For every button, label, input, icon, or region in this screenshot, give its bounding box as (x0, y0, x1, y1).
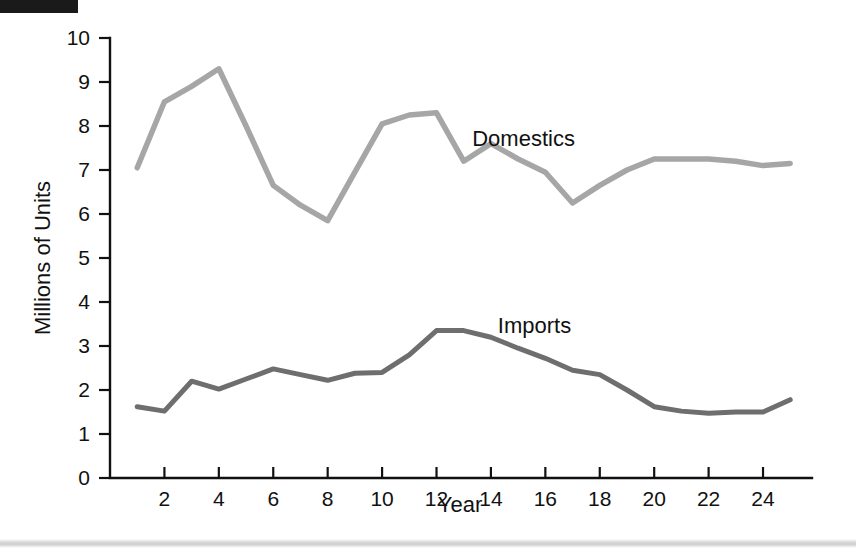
chart-tick-marks (99, 38, 763, 478)
x-tick-label-24: 24 (751, 487, 775, 510)
y-tick-label-2: 2 (78, 378, 90, 401)
x-tick-label-4: 4 (213, 487, 225, 510)
x-tick-label-14: 14 (479, 487, 503, 510)
y-tick-label-8: 8 (78, 114, 90, 137)
x-tick-label-8: 8 (322, 487, 334, 510)
y-tick-label-0: 0 (78, 466, 90, 489)
y-tick-label-7: 7 (78, 158, 90, 181)
series-line-imports (137, 331, 790, 414)
series-label-domestics: Domestics (472, 126, 575, 151)
series-label-imports: Imports (498, 313, 571, 338)
chart-canvas: 012345678910 24681012141618202224 Domest… (0, 0, 856, 552)
series-line-domestics (137, 69, 790, 221)
y-tick-label-3: 3 (78, 334, 90, 357)
x-tick-label-22: 22 (697, 487, 720, 510)
x-axis-title: Year (438, 492, 482, 517)
x-tick-label-6: 6 (267, 487, 279, 510)
y-tick-label-9: 9 (78, 70, 90, 93)
page-bottom-rule (0, 539, 856, 548)
chart-page: 012345678910 24681012141618202224 Domest… (0, 0, 856, 552)
y-tick-label-5: 5 (78, 246, 90, 269)
y-tick-label-6: 6 (78, 202, 90, 225)
x-tick-label-20: 20 (643, 487, 666, 510)
y-tick-label-10: 10 (67, 26, 90, 49)
x-tick-label-18: 18 (588, 487, 611, 510)
x-tick-label-16: 16 (534, 487, 557, 510)
y-axis-title: Millions of Units (30, 181, 55, 335)
x-tick-label-10: 10 (370, 487, 393, 510)
y-axis-tick-labels: 012345678910 (67, 26, 91, 489)
y-tick-label-1: 1 (78, 422, 90, 445)
y-tick-label-4: 4 (78, 290, 90, 313)
x-tick-label-2: 2 (159, 487, 171, 510)
series-inline-labels: DomesticsImports (472, 126, 575, 338)
chart-series (137, 69, 790, 414)
line-chart: 012345678910 24681012141618202224 Domest… (0, 0, 856, 552)
